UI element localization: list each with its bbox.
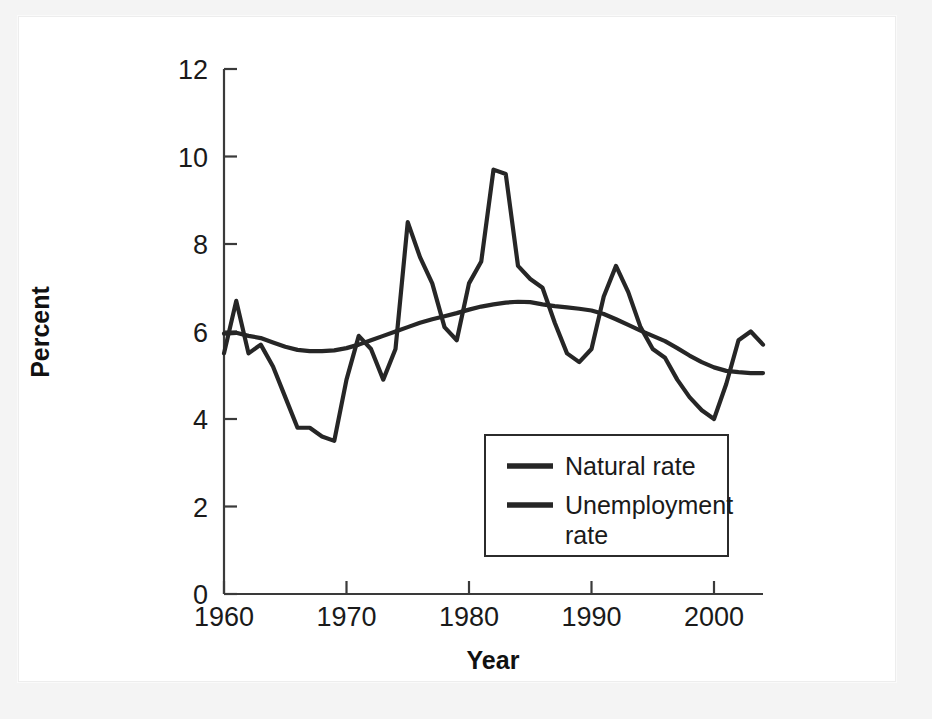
x-axis-title: Year [467, 646, 520, 674]
y-tick-label: 4 [193, 405, 208, 435]
y-tick-label: 10 [178, 143, 208, 173]
legend-label-natural-rate: Natural rate [565, 452, 696, 480]
legend-label-unemployment-rate-line2: rate [565, 521, 608, 549]
x-tick-label: 1990 [561, 602, 621, 632]
x-tick-label: 1970 [316, 602, 376, 632]
legend-label-unemployment-rate: Unemployment [565, 491, 733, 519]
y-axis-tick-labels: 024681012 [178, 55, 208, 610]
y-axis-title: Percent [26, 285, 54, 377]
figure-page: 024681012 19601970198019902000 Percent Y… [0, 0, 932, 719]
x-axis-ticks [224, 581, 714, 594]
y-tick-label: 6 [193, 318, 208, 348]
y-tick-label: 8 [193, 230, 208, 260]
y-tick-label: 12 [178, 55, 208, 85]
x-tick-label: 2000 [684, 602, 744, 632]
series-lines [224, 170, 763, 441]
figure-panel: 024681012 19601970198019902000 Percent Y… [18, 16, 896, 682]
y-tick-label: 2 [193, 493, 208, 523]
chart-legend: Natural rate Unemployment rate [485, 435, 733, 556]
x-tick-label: 1980 [439, 602, 499, 632]
x-axis-tick-labels: 19601970198019902000 [194, 602, 744, 632]
x-tick-label: 1960 [194, 602, 254, 632]
line-chart: 024681012 19601970198019902000 Percent Y… [19, 17, 897, 683]
series-line-natural-rate [224, 302, 763, 373]
